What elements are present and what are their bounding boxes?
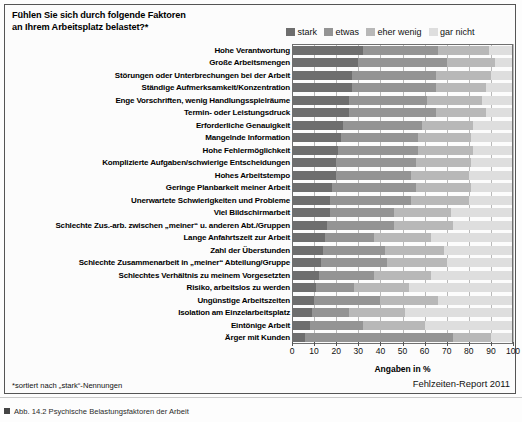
- bar-segment-gar-nicht: [489, 46, 513, 55]
- bar-segment-eher-wenig: [416, 158, 471, 167]
- bar-segment-stark: [292, 308, 312, 317]
- bar-segment-etwas: [310, 321, 363, 330]
- bar-segment-gar-nicht: [438, 296, 513, 305]
- legend-label: eher wenig: [378, 27, 422, 37]
- bar-segment-gar-nicht: [431, 233, 513, 242]
- bar-segment-gar-nicht: [451, 208, 513, 217]
- bar-segment-stark: [292, 58, 358, 67]
- bar-segment-etwas: [305, 333, 453, 342]
- bar-segment-eher-wenig: [422, 121, 473, 130]
- x-tick-label-80: 80: [464, 346, 473, 356]
- bar-segment-stark: [292, 246, 323, 255]
- bar-segment-gar-nicht: [495, 58, 513, 67]
- bar-row: [292, 208, 513, 217]
- bar-segment-stark: [292, 271, 319, 280]
- bar-segment-gar-nicht: [453, 221, 513, 230]
- bar-segment-stark: [292, 183, 332, 192]
- bar-segment-etwas: [323, 246, 385, 255]
- legend-swatch-etwas-icon: [324, 28, 333, 36]
- bar-segment-etwas: [332, 183, 416, 192]
- bar-segment-etwas: [349, 96, 426, 105]
- x-tick-label-0: 0: [290, 346, 295, 356]
- bar-segment-gar-nicht: [425, 321, 513, 330]
- bar-segment-eher-wenig: [374, 233, 431, 242]
- x-tick-label-30: 30: [354, 346, 363, 356]
- legend-item-stark: stark: [286, 27, 317, 37]
- bar-segment-gar-nicht: [471, 133, 513, 142]
- bar-row: [292, 171, 513, 180]
- bar-segment-gar-nicht: [471, 183, 513, 192]
- chart-source: Fehlzeiten-Report 2011: [413, 378, 510, 389]
- category-label: Zahl der Überstunden: [10, 246, 290, 255]
- title-line-2: an Ihrem Arbeitsplatz belastet?*: [12, 22, 312, 34]
- bar-row: [292, 321, 513, 330]
- x-axis-caption: Angaben in %: [292, 364, 513, 374]
- bar-row: [292, 146, 513, 155]
- legend-label: stark: [298, 27, 318, 37]
- bar-segment-eher-wenig: [438, 46, 489, 55]
- bar-segment-eher-wenig: [447, 58, 496, 67]
- bar-row: [292, 121, 513, 130]
- bar-segment-etwas: [358, 58, 446, 67]
- bar-segment-eher-wenig: [436, 108, 487, 117]
- legend-swatch-gar-nicht-icon: [429, 28, 438, 36]
- bar-segment-stark: [292, 96, 349, 105]
- legend-swatch-eher-wenig-icon: [366, 28, 375, 36]
- bar-segment-etwas: [341, 133, 418, 142]
- bar-segment-eher-wenig: [394, 221, 454, 230]
- category-label: Große Arbeitsmengen: [10, 58, 290, 67]
- bar-segment-eher-wenig: [411, 196, 468, 205]
- category-label: Erforderliche Genauigkeit: [10, 121, 290, 130]
- bar-row: [292, 271, 513, 280]
- bar-segment-eher-wenig: [453, 333, 491, 342]
- bar-segment-gar-nicht: [444, 246, 513, 255]
- category-label: Risiko, arbeitslos zu werden: [10, 283, 290, 292]
- bar-segment-etwas: [327, 221, 393, 230]
- bar-segment-eher-wenig: [411, 171, 468, 180]
- bar-segment-eher-wenig: [363, 321, 425, 330]
- bar-row: [292, 83, 513, 92]
- legend-item-gar-nicht: gar nicht: [429, 27, 475, 37]
- bar-row: [292, 258, 513, 267]
- bar-segment-stark: [292, 221, 327, 230]
- bar-segment-stark: [292, 158, 336, 167]
- category-label: Eintönige Arbeit: [10, 321, 290, 330]
- bar-segment-stark: [292, 283, 316, 292]
- bar-segment-stark: [292, 196, 330, 205]
- legend-item-etwas: etwas: [324, 27, 359, 37]
- category-label: Geringe Planbarkeit meiner Arbeit: [10, 183, 290, 192]
- gridline-100: [513, 44, 514, 344]
- bar-segment-stark: [292, 121, 343, 130]
- category-label: Hohes Arbeitstempo: [10, 171, 290, 180]
- category-label: Termin- oder Leistungsdruck: [10, 108, 290, 117]
- bar-segment-gar-nicht: [491, 71, 513, 80]
- category-label: Lange Anfahrtszeit zur Arbeit: [10, 233, 290, 242]
- title-line-1: Fühlen Sie sich durch folgende Faktoren: [12, 10, 312, 22]
- bar-segment-gar-nicht: [486, 83, 513, 92]
- bar-segment-eher-wenig: [387, 258, 447, 267]
- figure-caption-text: Abb. 14.2 Psychische Belastungsfaktoren …: [14, 407, 189, 416]
- bar-segment-eher-wenig: [394, 208, 451, 217]
- bar-segment-stark: [292, 296, 314, 305]
- caption-divider: [0, 397, 522, 398]
- bar-segment-eher-wenig: [349, 308, 404, 317]
- bar-segment-gar-nicht: [473, 146, 513, 155]
- bar-segment-stark: [292, 133, 341, 142]
- chart-legend: starketwaseher weniggar nicht: [286, 27, 479, 37]
- bar-segment-etwas: [336, 158, 416, 167]
- bar-segment-etwas: [363, 46, 438, 55]
- bar-segment-etwas: [338, 146, 418, 155]
- category-label: Hohe Fehlermöglichkeit: [10, 146, 290, 155]
- category-label: Ärger mit Kunden: [10, 333, 290, 342]
- category-label: Enge Vorschriften, wenig Handlungsspielr…: [10, 96, 290, 105]
- bar-segment-eher-wenig: [436, 71, 491, 80]
- bar-row: [292, 183, 513, 192]
- bar-segment-stark: [292, 258, 321, 267]
- bar-segment-etwas: [343, 121, 423, 130]
- x-axis: 0102030405060708090100: [292, 346, 513, 360]
- bar-segment-gar-nicht: [405, 308, 513, 317]
- bar-segment-etwas: [314, 296, 380, 305]
- bar-segment-stark: [292, 171, 336, 180]
- bar-segment-stark: [292, 208, 330, 217]
- bar-segment-stark: [292, 108, 349, 117]
